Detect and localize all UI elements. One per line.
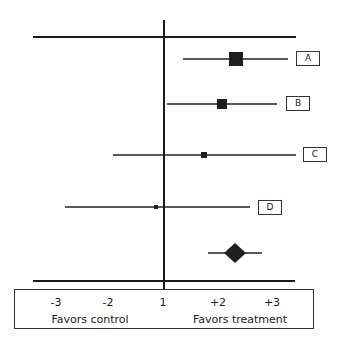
study-label-b: B [286,96,310,111]
point-estimate-square [154,205,158,209]
favors-treatment-label: Favors treatment [193,313,287,326]
x-tick-label: -2 [103,296,114,309]
study-label-c: C [303,147,327,162]
study-row-b [167,99,277,109]
study-row-c [113,152,296,158]
point-estimate-square [217,99,227,109]
study-label-d: D [258,200,282,215]
x-tick-label: -3 [51,296,62,309]
study-row-d [65,205,250,209]
x-tick-label: 1 [160,296,167,309]
point-estimate-square [201,152,207,158]
point-estimate-square [229,52,243,66]
summary-diamond [224,243,246,263]
study-row-a [183,52,288,66]
x-tick-label: +3 [264,296,280,309]
favors-control-label: Favors control [51,313,128,326]
x-tick-label: +2 [210,296,226,309]
study-label-a: A [296,51,320,66]
summary-row [208,243,262,263]
